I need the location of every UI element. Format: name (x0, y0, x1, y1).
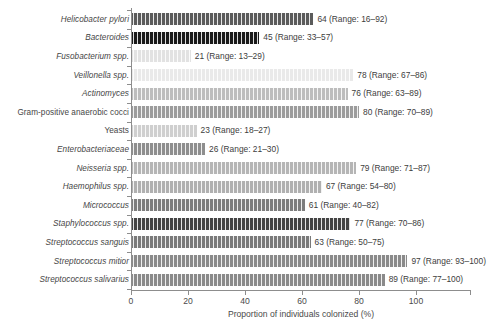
x-axis-tick (416, 290, 417, 295)
x-axis-tick-label: 0 (129, 296, 134, 306)
category-label: Veillonella spp. (0, 71, 129, 80)
y-axis-tick (127, 233, 131, 234)
bar (131, 32, 259, 44)
category-label: Enterobacteriaceae (0, 145, 129, 154)
bar-value-label: 21 (Range: 13–29) (191, 52, 265, 61)
chart-row: Gram-positive anaerobic cocci80 (Range: … (0, 103, 493, 122)
bar (131, 199, 305, 211)
chart-row: Helicobacter pylori64 (Range: 16–92) (0, 10, 493, 29)
bar-value-label: 77 (Range: 70–86) (350, 219, 424, 228)
y-axis-tick (127, 196, 131, 197)
x-axis-line (131, 290, 471, 291)
bar (131, 125, 197, 137)
bar-group: 76 (Range: 63–89) (131, 88, 421, 100)
y-axis-tick (127, 103, 131, 104)
bar-value-label: 26 (Range: 21–30) (205, 145, 279, 154)
chart-rows: Helicobacter pylori64 (Range: 16–92)Bact… (0, 10, 493, 289)
bar-group: 64 (Range: 16–92) (131, 13, 387, 25)
bar-group: 61 (Range: 40–82) (131, 199, 379, 211)
y-axis-tick (127, 215, 131, 216)
x-axis-endcap (470, 290, 471, 295)
bar-value-label: 64 (Range: 16–92) (313, 15, 387, 24)
chart-row: Veillonella spp.78 (Range: 67–86) (0, 66, 493, 85)
x-axis-tick (188, 290, 189, 295)
y-axis-tick (127, 140, 131, 141)
bar-group: 67 (Range: 54–80) (131, 181, 396, 193)
category-label: Streptococcus mitior (0, 257, 129, 266)
bar-value-label: 79 (Range: 71–87) (356, 164, 430, 173)
y-axis-tick (127, 10, 131, 11)
category-label: Haemophilus spp. (0, 182, 129, 191)
bar (131, 274, 385, 286)
y-axis-tick (127, 270, 131, 271)
x-axis-tick-label: 60 (297, 296, 307, 306)
bar-group: 97 (Range: 93–100) (131, 255, 486, 267)
y-axis-tick (127, 84, 131, 85)
bar-value-label: 45 (Range: 33–57) (259, 33, 333, 42)
chart-row: Bacteroides45 (Range: 33–57) (0, 29, 493, 48)
x-axis-tick (245, 290, 246, 295)
category-label: Actinomyces (0, 89, 129, 98)
bar-group: 79 (Range: 71–87) (131, 162, 430, 174)
bar (131, 69, 353, 81)
x-axis-tick-label: 100 (409, 296, 423, 306)
bar (131, 13, 313, 25)
bar (131, 181, 322, 193)
category-label: Helicobacter pylori (0, 15, 129, 24)
category-label: Bacteroides (0, 33, 129, 42)
chart-row: Neisseria spp.79 (Range: 71–87) (0, 159, 493, 178)
bar-value-label: 76 (Range: 63–89) (348, 89, 422, 98)
bar (131, 88, 348, 100)
x-axis-tick-label: 20 (183, 296, 193, 306)
y-axis-tick (127, 122, 131, 123)
bar-value-label: 97 (Range: 93–100) (407, 257, 486, 266)
category-label: Yeasts (0, 126, 129, 135)
category-label: Neisseria spp. (0, 164, 129, 173)
category-label: Micrococcus (0, 201, 129, 210)
bar-group: 26 (Range: 21–30) (131, 143, 279, 155)
chart-row: Streptococcus sanguis63 (Range: 50–75) (0, 233, 493, 252)
y-axis-tick (127, 29, 131, 30)
y-axis-tick (127, 159, 131, 160)
x-axis-tick (302, 290, 303, 295)
bar-group: 77 (Range: 70–86) (131, 218, 424, 230)
category-label: Staphylococcus spp. (0, 219, 129, 228)
y-axis-tick (127, 177, 131, 178)
chart-row: Streptococcus mitior97 (Range: 93–100) (0, 252, 493, 271)
bar (131, 143, 205, 155)
category-label: Streptococcus sanguis (0, 238, 129, 247)
chart-row: Enterobacteriaceae26 (Range: 21–30) (0, 140, 493, 159)
y-axis-tick (127, 66, 131, 67)
bar-chart: Helicobacter pylori64 (Range: 16–92)Bact… (0, 0, 493, 329)
chart-row: Yeasts23 (Range: 18–27) (0, 122, 493, 141)
bar (131, 255, 407, 267)
chart-row: Micrococcus61 (Range: 40–82) (0, 196, 493, 215)
bar-value-label: 61 (Range: 40–82) (305, 201, 379, 210)
category-label: Gram-positive anaerobic cocci (0, 108, 129, 117)
bar (131, 218, 350, 230)
category-label: Fusobacterium spp. (0, 52, 129, 61)
bar-group: 63 (Range: 50–75) (131, 236, 384, 248)
y-axis-tick (127, 252, 131, 253)
x-axis-tick-label: 40 (240, 296, 250, 306)
bar-value-label: 67 (Range: 54–80) (322, 182, 396, 191)
y-axis-tick (127, 47, 131, 48)
x-axis-tick-label: 80 (354, 296, 364, 306)
bar-value-label: 78 (Range: 67–86) (353, 71, 427, 80)
bar (131, 236, 311, 248)
bar-group: 89 (Range: 77–100) (131, 274, 463, 286)
bar-value-label: 80 (Range: 70–89) (359, 108, 433, 117)
chart-row: Streptococcus salivarius89 (Range: 77–10… (0, 270, 493, 289)
x-axis-title: Proportion of individuals colonized (%) (131, 309, 471, 319)
bar-value-label: 63 (Range: 50–75) (311, 238, 385, 247)
bar-group: 78 (Range: 67–86) (131, 69, 427, 81)
bar-value-label: 89 (Range: 77–100) (385, 275, 464, 284)
chart-row: Fusobacterium spp.21 (Range: 13–29) (0, 47, 493, 66)
bar (131, 106, 359, 118)
x-axis-tick (359, 290, 360, 295)
bar (131, 162, 356, 174)
bar-group: 23 (Range: 18–27) (131, 125, 270, 137)
bar-group: 21 (Range: 13–29) (131, 50, 265, 62)
category-label: Streptococcus salivarius (0, 275, 129, 284)
y-axis-line (131, 8, 132, 290)
